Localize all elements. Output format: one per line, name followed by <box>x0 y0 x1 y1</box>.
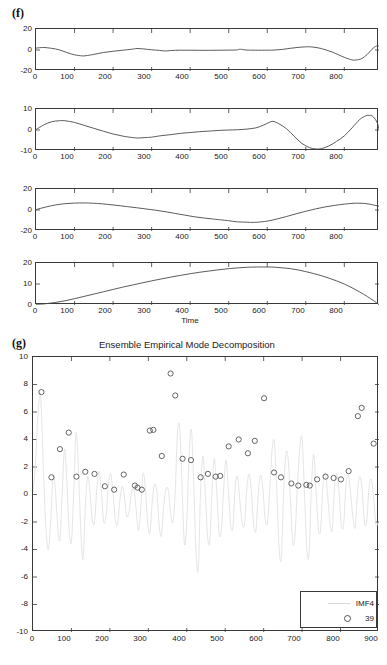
plot-area-1 <box>35 28 378 70</box>
x-tick-4-400: 400 <box>169 307 195 315</box>
x-tick-1-800: 800 <box>323 73 349 81</box>
legend-label-imf4: IMF4 <box>356 599 374 608</box>
x-tick-5-600: 600 <box>243 635 269 643</box>
y-tick-3-mid: 0 <box>5 206 32 214</box>
y-tick-4-mid: 10 <box>5 280 32 288</box>
x-tick-2-0: 0 <box>25 153 45 161</box>
y-tick-5-m8: -8 <box>0 600 28 608</box>
y-tick-5-10: 10 <box>0 353 28 361</box>
y-tick-4-top: 20 <box>5 259 32 267</box>
y-tick-5-m4: -4 <box>0 545 28 553</box>
y-tick-1-mid: 0 <box>5 46 32 54</box>
x-tick-1-200: 200 <box>92 73 118 81</box>
chart-title-eemd: Ensemble Empirical Mode Decomposition <box>99 339 275 350</box>
plot-area-5 <box>32 356 378 631</box>
x-tick-4-200: 200 <box>92 307 118 315</box>
y-tick-5-6: 6 <box>0 408 28 416</box>
y-tick-5-2: 2 <box>0 463 28 471</box>
x-tick-2-700: 700 <box>285 153 311 161</box>
x-tick-5-300: 300 <box>127 635 153 643</box>
x-tick-5-800: 800 <box>320 635 346 643</box>
x-tick-5-0: 0 <box>22 635 42 643</box>
chart-imf-residual-1: 20 0 -20 0 100 200 300 400 500 600 700 8… <box>0 24 387 90</box>
y-tick-5-0: 0 <box>0 490 28 498</box>
x-tick-4-500: 500 <box>208 307 234 315</box>
x-tick-1-700: 700 <box>285 73 311 81</box>
x-axis-title-time: Time <box>160 316 220 325</box>
panel-f-label: (f) <box>12 6 24 21</box>
page-footer-fragment <box>3 659 123 665</box>
x-tick-1-300: 300 <box>131 73 157 81</box>
y-tick-2-top: 10 <box>5 105 32 113</box>
y-tick-5-4: 4 <box>0 435 28 443</box>
x-tick-4-800: 800 <box>323 307 349 315</box>
x-tick-5-100: 100 <box>51 635 77 643</box>
y-tick-1-top: 20 <box>5 25 32 33</box>
x-tick-4-600: 600 <box>246 307 272 315</box>
x-tick-5-400: 400 <box>166 635 192 643</box>
x-tick-3-400: 400 <box>169 233 195 241</box>
x-tick-1-400: 400 <box>169 73 195 81</box>
x-tick-4-700: 700 <box>285 307 311 315</box>
x-tick-3-200: 200 <box>92 233 118 241</box>
panel-g-label: (g) <box>12 336 26 351</box>
x-tick-5-500: 500 <box>204 635 230 643</box>
x-tick-3-100: 100 <box>54 233 80 241</box>
x-tick-3-600: 600 <box>246 233 272 241</box>
x-tick-3-500: 500 <box>208 233 234 241</box>
x-tick-4-300: 300 <box>131 307 157 315</box>
x-tick-1-600: 600 <box>246 73 272 81</box>
x-tick-3-0: 0 <box>25 233 45 241</box>
y-tick-5-8: 8 <box>0 380 28 388</box>
x-tick-5-200: 200 <box>89 635 115 643</box>
x-tick-2-200: 200 <box>92 153 118 161</box>
legend-label-39: 39 <box>365 614 374 623</box>
x-tick-5-700: 700 <box>281 635 307 643</box>
legend-entry-39: 39 <box>305 611 374 625</box>
chart-imf-residual-2: 10 0 -10 0 100 200 300 400 500 600 700 8… <box>0 104 387 170</box>
chart-imf-residual-4: 20 10 0 0 100 200 300 400 500 600 700 80… <box>0 258 387 328</box>
x-tick-4-100: 100 <box>54 307 80 315</box>
x-tick-2-400: 400 <box>169 153 195 161</box>
line-series-4 <box>36 263 379 305</box>
x-tick-1-500: 500 <box>208 73 234 81</box>
x-tick-3-300: 300 <box>131 233 157 241</box>
x-tick-1-100: 100 <box>54 73 80 81</box>
x-tick-2-800: 800 <box>323 153 349 161</box>
x-tick-2-600: 600 <box>246 153 272 161</box>
plot-area-3 <box>35 188 378 230</box>
x-tick-4-0: 0 <box>25 307 45 315</box>
y-tick-2-mid: 0 <box>5 126 32 134</box>
legend-box: IMF4 39 <box>300 591 377 628</box>
y-tick-3-top: 20 <box>5 185 32 193</box>
line-series-3 <box>36 189 379 231</box>
plot-area-4 <box>35 262 378 304</box>
plot-area-2 <box>35 108 378 150</box>
line-series-2 <box>36 109 379 151</box>
x-tick-2-500: 500 <box>208 153 234 161</box>
x-tick-1-0: 0 <box>25 73 45 81</box>
x-tick-2-100: 100 <box>54 153 80 161</box>
y-tick-5-m2: -2 <box>0 518 28 526</box>
legend-line-icon <box>328 603 350 604</box>
legend-entry-imf4: IMF4 <box>305 596 374 610</box>
y-tick-5-m6: -6 <box>0 573 28 581</box>
x-tick-3-800: 800 <box>323 233 349 241</box>
legend-circle-icon <box>344 615 351 622</box>
line-series-1 <box>36 29 379 71</box>
chart-eemd-imf4: 10 8 6 4 2 0 -2 -4 -6 -8 -10 0 100 200 3… <box>0 352 387 662</box>
x-tick-5-900: 900 <box>358 635 384 643</box>
x-tick-3-700: 700 <box>285 233 311 241</box>
chart-imf-residual-3: 20 0 -20 0 100 200 300 400 500 600 700 8… <box>0 184 387 250</box>
x-tick-2-300: 300 <box>131 153 157 161</box>
